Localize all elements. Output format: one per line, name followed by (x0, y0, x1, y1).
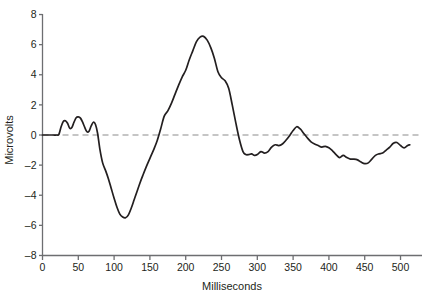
y-axis-tick-label: 8 (31, 8, 37, 20)
chart-figure: 86420–2–4–6–8 05010015020025030035040045… (0, 0, 429, 300)
x-axis-tick-label: 500 (392, 261, 410, 273)
y-axis-tick-labels: 86420–2–4–6–8 (25, 8, 37, 261)
y-axis-tick-label: –2 (25, 159, 37, 171)
x-axis-tick-label: 450 (356, 261, 374, 273)
chart-plot-area: 86420–2–4–6–8 05010015020025030035040045… (0, 0, 429, 300)
y-axis-tick-label: –4 (25, 189, 37, 201)
x-axis-tick-label: 200 (177, 261, 195, 273)
y-axis-title: Microvolts (3, 115, 15, 165)
x-axis-tick-marks (43, 256, 401, 261)
y-axis-tick-label: –6 (25, 219, 37, 231)
x-axis-tick-label: 150 (141, 261, 159, 273)
x-axis-tick-labels: 050100150200250300350400450500 (40, 261, 410, 273)
x-axis-tick-label: 250 (213, 261, 231, 273)
x-axis-tick-label: 0 (40, 261, 46, 273)
x-axis-tick-label: 350 (284, 261, 302, 273)
x-axis-tick-label: 400 (320, 261, 338, 273)
y-axis-tick-label: 0 (31, 129, 37, 141)
x-axis-tick-label: 300 (249, 261, 267, 273)
waveform-line-series (43, 36, 410, 218)
x-axis-tick-label: 100 (105, 261, 123, 273)
x-axis-tick-label: 50 (72, 261, 84, 273)
y-axis-tick-label: 4 (31, 68, 37, 80)
y-axis-tick-label: 6 (31, 38, 37, 50)
y-axis-tick-label: 2 (31, 99, 37, 111)
y-axis-tick-label: –8 (25, 249, 37, 261)
x-axis-title: Milliseconds (202, 280, 262, 292)
